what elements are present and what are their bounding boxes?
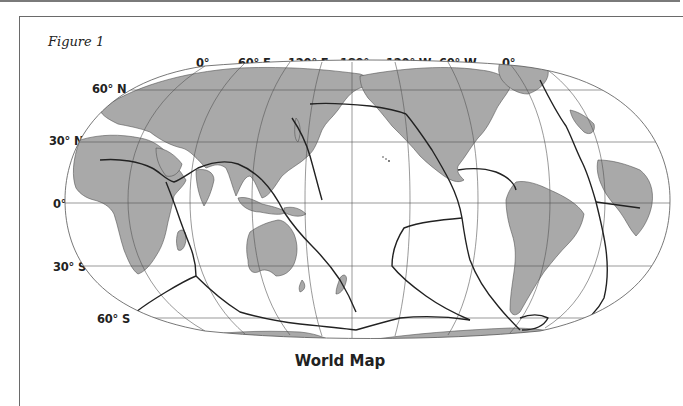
map-content [60,55,680,346]
map-title: World Map [0,352,680,370]
